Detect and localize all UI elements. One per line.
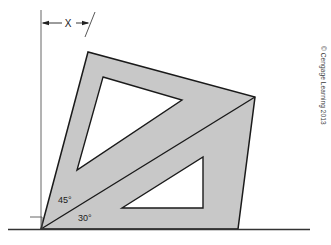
dimension-line-x: X (42, 12, 96, 37)
arrow-right-icon (82, 21, 90, 25)
dimension-label-x: X (65, 18, 72, 29)
arrow-left-icon (42, 21, 50, 25)
right-angle-square-marker (30, 217, 42, 229)
figure-container: X 45° 30° © Cengage Learning 2013 (0, 0, 331, 245)
angle-label-45: 45° (58, 195, 72, 205)
angle-label-30: 30° (78, 213, 92, 223)
drafting-triangle-diagram: X 45° 30° (0, 0, 331, 245)
dimension-tick-mark (85, 12, 95, 37)
